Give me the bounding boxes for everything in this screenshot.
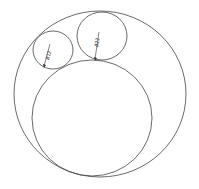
dimension-label-left: Ø12: [44, 50, 52, 60]
small-left-circle: [33, 31, 73, 69]
dimension-label-top: Ø22: [93, 37, 100, 47]
cad-drawing: Ø12 Ø22: [0, 0, 199, 189]
large-inner-circle: [32, 60, 152, 176]
small-top-circle: [77, 12, 127, 60]
